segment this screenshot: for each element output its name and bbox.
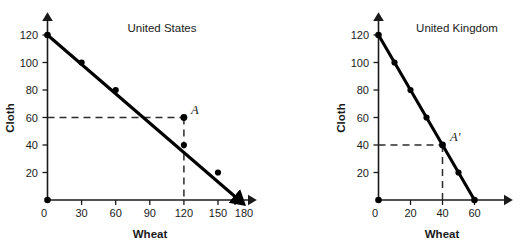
origin-marker bbox=[44, 197, 51, 204]
x-tick-label: 30 bbox=[75, 207, 87, 219]
production-possibility-frontier-figure: 120 100 80 60 40 20 0 30 60 90 120 150 1… bbox=[0, 0, 521, 249]
data-point-marker-a bbox=[181, 114, 188, 121]
annotation-label-a: A bbox=[190, 103, 199, 117]
y-tick-label: 40 bbox=[26, 139, 38, 151]
data-point-marker bbox=[215, 169, 221, 175]
y-tick-label: 100 bbox=[20, 57, 38, 69]
x-axis-title-uk: Wheat bbox=[425, 228, 460, 240]
x-tick-label: 180 bbox=[235, 207, 253, 219]
origin-label: 0 bbox=[41, 207, 47, 219]
chart-svg-united-kingdom: 120 100 80 60 40 20 0 20 40 60 Wheat Clo… bbox=[330, 0, 521, 249]
y-tick-label: 60 bbox=[357, 112, 369, 124]
data-point-marker bbox=[471, 197, 478, 204]
guide-lines-point-a bbox=[48, 118, 184, 201]
x-tick-label: 20 bbox=[404, 207, 416, 219]
x-tick-label: 120 bbox=[175, 207, 193, 219]
panel-title-uk: United Kingdom bbox=[416, 22, 498, 34]
chart-panel-united-states: 120 100 80 60 40 20 0 30 60 90 120 150 1… bbox=[0, 0, 266, 249]
origin-label: 0 bbox=[372, 207, 378, 219]
x-tick-label: 60 bbox=[468, 207, 480, 219]
y-tick-label: 80 bbox=[357, 84, 369, 96]
x-tick-label: 40 bbox=[436, 207, 448, 219]
annotation-label-a-prime: A' bbox=[449, 130, 461, 144]
y-tick-label: 120 bbox=[20, 29, 38, 41]
x-tick-label: 150 bbox=[209, 207, 227, 219]
data-point-marker bbox=[181, 142, 187, 148]
y-tick-label: 80 bbox=[26, 84, 38, 96]
data-point-marker bbox=[113, 87, 119, 93]
origin-marker bbox=[375, 197, 382, 204]
y-tick-label: 120 bbox=[351, 29, 369, 41]
y-axis-title-us: Cloth bbox=[4, 103, 16, 132]
y-axis-title-uk: Cloth bbox=[335, 103, 347, 132]
data-point-marker bbox=[375, 32, 382, 39]
data-point-marker bbox=[407, 87, 413, 93]
data-point-marker bbox=[79, 59, 85, 65]
data-point-marker bbox=[391, 59, 397, 65]
panel-title-us: United States bbox=[127, 22, 196, 34]
data-point-marker bbox=[44, 32, 51, 39]
y-tick-label: 100 bbox=[351, 57, 369, 69]
y-tick-label: 20 bbox=[357, 167, 369, 179]
data-point-marker-a-prime bbox=[439, 142, 446, 149]
chart-svg-united-states: 120 100 80 60 40 20 0 30 60 90 120 150 1… bbox=[0, 0, 266, 249]
y-tick-label: 40 bbox=[357, 139, 369, 151]
data-point-marker bbox=[455, 169, 461, 175]
x-tick-label: 90 bbox=[144, 207, 156, 219]
y-tick-label: 60 bbox=[26, 112, 38, 124]
x-axis-title-us: Wheat bbox=[133, 228, 168, 240]
data-point-marker bbox=[423, 114, 429, 120]
y-tick-label: 20 bbox=[26, 167, 38, 179]
guide-lines-point-a-prime bbox=[379, 145, 443, 200]
x-tick-label: 60 bbox=[110, 207, 122, 219]
chart-panel-united-kingdom: 120 100 80 60 40 20 0 20 40 60 Wheat Clo… bbox=[330, 0, 521, 249]
